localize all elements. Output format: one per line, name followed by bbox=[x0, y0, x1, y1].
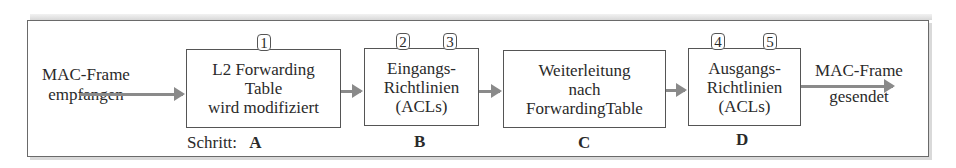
arrow-input bbox=[80, 93, 183, 96]
step-d: D bbox=[736, 130, 748, 150]
box-d-line2: Richtlinien bbox=[707, 78, 783, 97]
box-a-line2: Table bbox=[245, 79, 283, 98]
step-prefix: Schritt: bbox=[187, 133, 237, 152]
box-a-line1: L2 Forwarding bbox=[212, 60, 314, 79]
box-d-egress-acl: Ausgangs- Richtlinien (ACLs) bbox=[688, 48, 801, 126]
arrow-b-c bbox=[479, 90, 500, 93]
box-c-line3: ForwardingTable bbox=[526, 99, 643, 118]
box-d-line3: (ACLs) bbox=[719, 97, 771, 116]
output-label: MAC-Frame gesendet bbox=[804, 61, 914, 107]
badge-2: 2 bbox=[396, 33, 410, 50]
step-label: Schritt: A bbox=[187, 133, 262, 153]
input-label: MAC-Frame empfangen bbox=[36, 65, 136, 105]
badge-3: 3 bbox=[443, 33, 457, 50]
box-c-forwarding: Weiterleitung nach ForwardingTable bbox=[503, 50, 666, 128]
arrow-c-d bbox=[666, 89, 685, 92]
box-b-line3: (ACLs) bbox=[396, 97, 448, 116]
badge-4: 4 bbox=[711, 33, 725, 50]
arrow-a-b bbox=[341, 90, 361, 93]
box-c-line1: Weiterleitung bbox=[538, 61, 630, 80]
step-a: A bbox=[249, 133, 261, 152]
output-label-line1: MAC-Frame bbox=[804, 61, 914, 81]
box-b-ingress-acl: Eingangs- Richtlinien (ACLs) bbox=[364, 48, 479, 126]
input-label-line1: MAC-Frame bbox=[36, 65, 136, 85]
box-b-line1: Eingangs- bbox=[387, 59, 456, 78]
box-c-line2: nach bbox=[568, 80, 600, 99]
step-c: C bbox=[578, 133, 590, 153]
box-a-line3: wird modifiziert bbox=[208, 98, 319, 117]
box-b-line2: Richtlinien bbox=[384, 78, 460, 97]
badge-5: 5 bbox=[763, 33, 777, 50]
box-d-line1: Ausgangs- bbox=[708, 59, 781, 78]
box-a-forwarding-table: L2 Forwarding Table wird modifiziert bbox=[186, 49, 341, 128]
output-label-line2: gesendet bbox=[804, 87, 914, 107]
badge-1: 1 bbox=[257, 34, 271, 51]
step-b: B bbox=[414, 132, 425, 152]
